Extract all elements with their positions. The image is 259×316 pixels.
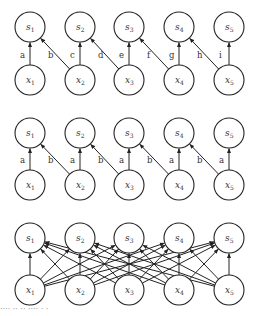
convolutional-node-s3: s3 — [114, 118, 144, 148]
edge-weight-label: d — [98, 50, 104, 60]
convolutional-node-s2: s2 — [65, 118, 95, 148]
locally-connected-node-x3: x3 — [114, 65, 144, 95]
convolutional-node-x4: x4 — [164, 170, 194, 200]
convolutional-edge-x4-s3 — [140, 144, 169, 174]
locally-connected-edge-x3-s2 — [91, 38, 119, 69]
connectivity-diagram: abcdefghiababababa s1s2s3s4s5x1x2x3x4x5s… — [0, 0, 259, 316]
locally-connected-node-x2: x2 — [65, 65, 95, 95]
edge-weight-label: g — [169, 50, 175, 60]
edge-weight-label: a — [70, 155, 75, 165]
edge-weight-label: a — [20, 155, 25, 165]
edge-weight-label: f — [147, 50, 151, 60]
fully-connected-node-x3: x3 — [114, 275, 144, 305]
edge-weight-label: a — [119, 155, 124, 165]
edge-weight-label: a — [219, 155, 224, 165]
fully-connected-node-x2: x2 — [65, 275, 95, 305]
fully-connected-node-s5: s5 — [214, 223, 244, 253]
fully-connected-node-s3: s3 — [114, 223, 144, 253]
convolutional-node-s5: s5 — [214, 118, 244, 148]
fully-connected-node-s4: s4 — [164, 223, 194, 253]
figure-caption: ···· ·· ·· ···· · · — [0, 305, 120, 316]
fully-connected-node-x1: x1 — [15, 275, 45, 305]
locally-connected-edge-x4-s3 — [140, 38, 169, 69]
locally-connected-node-s5: s5 — [214, 12, 244, 42]
convolutional-edge-x3-s2 — [91, 144, 119, 174]
edge-weight-label: c — [70, 50, 75, 60]
locally-connected-edge-x5-s4 — [190, 38, 219, 69]
fully-connected-node-x5: x5 — [214, 275, 244, 305]
edge-weight-label: b — [197, 155, 203, 165]
locally-connected-node-x5: x5 — [214, 65, 244, 95]
fully-connected-node-s2: s2 — [65, 223, 95, 253]
locally-connected-node-s3: s3 — [114, 12, 144, 42]
convolutional-node-s4: s4 — [164, 118, 194, 148]
edge-weight-label: e — [119, 50, 124, 60]
locally-connected-edge-x2-s1 — [41, 38, 70, 69]
edge-weight-label: h — [197, 50, 203, 60]
fully-connected-node-x4: x4 — [164, 275, 194, 305]
edge-weight-label: a — [169, 155, 174, 165]
edge-weight-label: i — [219, 50, 222, 60]
convolutional-node-x2: x2 — [65, 170, 95, 200]
locally-connected-node-s4: s4 — [164, 12, 194, 42]
edge-weight-label: a — [20, 50, 25, 60]
convolutional-node-x1: x1 — [15, 170, 45, 200]
edge-weight-label: b — [98, 155, 104, 165]
fully-connected-node-s1: s1 — [15, 223, 45, 253]
locally-connected-node-x1: x1 — [15, 65, 45, 95]
convolutional-edge-x5-s4 — [190, 144, 219, 174]
edge-weight-label: b — [48, 50, 54, 60]
convolutional-node-x5: x5 — [214, 170, 244, 200]
convolutional-node-x3: x3 — [114, 170, 144, 200]
convolutional-edge-x2-s1 — [41, 144, 70, 174]
edge-weight-label: b — [48, 155, 54, 165]
locally-connected-node-s1: s1 — [15, 12, 45, 42]
locally-connected-node-s2: s2 — [65, 12, 95, 42]
convolutional-node-s1: s1 — [15, 118, 45, 148]
locally-connected-node-x4: x4 — [164, 65, 194, 95]
edge-weight-label: b — [147, 155, 153, 165]
